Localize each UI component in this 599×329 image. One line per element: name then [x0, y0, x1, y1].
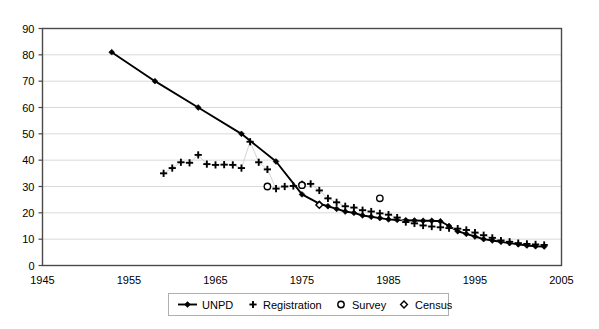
- y-axis-tick-label: 20: [22, 207, 34, 219]
- x-axis-tick-label: 1985: [376, 274, 400, 286]
- y-axis-tick-label: 60: [22, 102, 34, 114]
- marker-open-circle: [299, 182, 305, 188]
- y-axis-tick-label: 10: [22, 233, 34, 245]
- legend-label: UNPD: [202, 299, 233, 311]
- y-axis-tick-label: 50: [22, 128, 34, 140]
- legend-label: Census: [415, 299, 453, 311]
- x-axis-tick-label: 2005: [549, 274, 573, 286]
- y-axis-tick-label: 70: [22, 75, 34, 87]
- y-axis-tick-label: 0: [28, 260, 34, 272]
- line-chart: 0102030405060708090 19451955196519751985…: [0, 0, 599, 329]
- y-axis-tick-label: 40: [22, 154, 34, 166]
- marker-open-circle: [338, 301, 344, 307]
- chart-legend: UNPDRegistrationSurveyCensus: [169, 294, 453, 316]
- legend-label: Survey: [352, 299, 387, 311]
- legend-label: Registration: [263, 299, 322, 311]
- x-axis-tick-label: 1995: [463, 274, 487, 286]
- y-axis-tick-label: 80: [22, 49, 34, 61]
- x-axis-tick-label: 1975: [290, 274, 314, 286]
- marker-open-circle: [264, 183, 270, 189]
- x-axis-tick-label: 1945: [30, 274, 54, 286]
- marker-open-circle: [377, 195, 383, 201]
- x-axis-tick-label: 1965: [203, 274, 227, 286]
- y-axis-tick-label: 30: [22, 181, 34, 193]
- chart-container: 0102030405060708090 19451955196519751985…: [0, 0, 599, 329]
- x-axis-tick-label: 1955: [117, 274, 141, 286]
- y-axis-tick-label: 90: [22, 23, 34, 35]
